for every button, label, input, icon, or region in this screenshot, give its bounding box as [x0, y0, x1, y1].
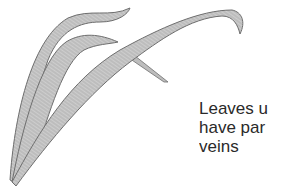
caption-line-3: veins: [199, 137, 283, 156]
caption-line-2: have par: [199, 118, 283, 137]
leaves-illustration: [0, 0, 283, 188]
caption-line-1: Leaves u: [199, 99, 283, 118]
caption-text: Leaves u have par veins: [199, 99, 283, 156]
